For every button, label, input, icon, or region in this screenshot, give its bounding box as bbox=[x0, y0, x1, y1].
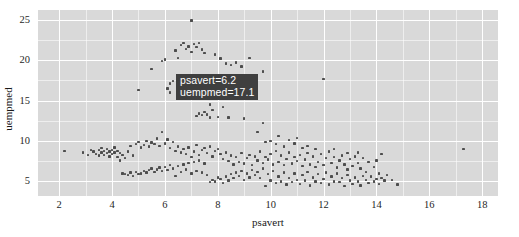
data-point[interactable] bbox=[269, 179, 271, 181]
data-point[interactable] bbox=[219, 153, 221, 155]
data-point[interactable] bbox=[299, 154, 301, 156]
data-point[interactable] bbox=[182, 148, 184, 150]
data-point[interactable] bbox=[193, 43, 195, 45]
data-point[interactable] bbox=[357, 162, 359, 164]
data-point[interactable] bbox=[222, 106, 224, 108]
data-point[interactable] bbox=[132, 154, 134, 156]
data-point[interactable] bbox=[63, 150, 65, 152]
data-point[interactable] bbox=[108, 155, 110, 157]
data-point[interactable] bbox=[357, 151, 359, 153]
data-point[interactable] bbox=[328, 150, 330, 152]
data-point[interactable] bbox=[333, 148, 335, 150]
data-point[interactable] bbox=[150, 167, 152, 169]
data-point[interactable] bbox=[341, 177, 343, 179]
data-point[interactable] bbox=[195, 144, 197, 146]
data-point[interactable] bbox=[185, 168, 187, 170]
data-point[interactable] bbox=[275, 150, 277, 152]
data-point[interactable] bbox=[264, 141, 266, 143]
data-point[interactable] bbox=[283, 164, 285, 166]
data-point[interactable] bbox=[206, 113, 208, 115]
data-point[interactable] bbox=[209, 181, 211, 183]
data-point[interactable] bbox=[346, 174, 348, 176]
data-point[interactable] bbox=[182, 163, 184, 165]
data-point[interactable] bbox=[262, 122, 264, 124]
data-point[interactable] bbox=[230, 154, 232, 156]
data-point[interactable] bbox=[217, 116, 219, 118]
data-point[interactable] bbox=[169, 147, 171, 149]
data-point[interactable] bbox=[145, 171, 147, 173]
data-point[interactable] bbox=[267, 173, 269, 175]
data-point[interactable] bbox=[150, 68, 152, 70]
data-point[interactable] bbox=[219, 57, 221, 59]
data-point[interactable] bbox=[219, 178, 221, 180]
data-point[interactable] bbox=[203, 52, 205, 54]
data-point[interactable] bbox=[338, 181, 340, 183]
data-point[interactable] bbox=[312, 176, 314, 178]
data-point[interactable] bbox=[137, 89, 139, 91]
data-point[interactable] bbox=[214, 180, 216, 182]
data-point[interactable] bbox=[87, 154, 89, 156]
data-point[interactable] bbox=[291, 162, 293, 164]
data-point[interactable] bbox=[95, 153, 97, 155]
data-point[interactable] bbox=[325, 171, 327, 173]
data-point[interactable] bbox=[462, 148, 464, 150]
data-point[interactable] bbox=[291, 181, 293, 183]
data-point[interactable] bbox=[227, 116, 229, 118]
data-point[interactable] bbox=[169, 82, 171, 84]
data-point[interactable] bbox=[365, 171, 367, 173]
data-point[interactable] bbox=[127, 174, 129, 176]
data-point[interactable] bbox=[232, 177, 234, 179]
data-point[interactable] bbox=[343, 163, 345, 165]
data-point[interactable] bbox=[98, 154, 100, 156]
data-point[interactable] bbox=[195, 115, 197, 117]
data-point[interactable] bbox=[209, 103, 211, 105]
data-point[interactable] bbox=[293, 142, 295, 144]
data-point[interactable] bbox=[341, 154, 343, 156]
data-point[interactable] bbox=[214, 150, 216, 152]
data-point[interactable] bbox=[169, 91, 171, 93]
data-point[interactable] bbox=[166, 138, 168, 140]
data-point[interactable] bbox=[256, 159, 258, 161]
data-point[interactable] bbox=[322, 78, 324, 80]
data-point[interactable] bbox=[230, 173, 232, 175]
data-point[interactable] bbox=[198, 42, 200, 44]
data-point[interactable] bbox=[127, 150, 129, 152]
data-point[interactable] bbox=[373, 166, 375, 168]
data-point[interactable] bbox=[214, 53, 216, 55]
data-point[interactable] bbox=[262, 70, 264, 72]
data-point[interactable] bbox=[288, 151, 290, 153]
data-point[interactable] bbox=[240, 65, 242, 67]
data-point[interactable] bbox=[174, 150, 176, 152]
data-point[interactable] bbox=[169, 164, 171, 166]
data-point[interactable] bbox=[285, 158, 287, 160]
data-point[interactable] bbox=[304, 179, 306, 181]
data-point[interactable] bbox=[121, 154, 123, 156]
data-point[interactable] bbox=[333, 180, 335, 182]
data-point[interactable] bbox=[373, 180, 375, 182]
data-point[interactable] bbox=[351, 183, 353, 185]
data-point[interactable] bbox=[259, 150, 261, 152]
data-point[interactable] bbox=[354, 155, 356, 157]
data-point[interactable] bbox=[203, 147, 205, 149]
data-point[interactable] bbox=[314, 166, 316, 168]
data-point[interactable] bbox=[301, 147, 303, 149]
data-point[interactable] bbox=[248, 57, 250, 59]
data-point[interactable] bbox=[246, 157, 248, 159]
data-point[interactable] bbox=[153, 143, 155, 145]
data-point[interactable] bbox=[277, 161, 279, 163]
data-point[interactable] bbox=[82, 151, 84, 153]
data-point[interactable] bbox=[185, 48, 187, 50]
data-point[interactable] bbox=[201, 114, 203, 116]
data-point[interactable] bbox=[325, 157, 327, 159]
plot-panel[interactable] bbox=[38, 10, 498, 196]
data-point[interactable] bbox=[195, 46, 197, 48]
data-point[interactable] bbox=[225, 175, 227, 177]
data-point[interactable] bbox=[177, 57, 179, 59]
data-point[interactable] bbox=[299, 183, 301, 185]
data-point[interactable] bbox=[185, 153, 187, 155]
data-point[interactable] bbox=[166, 87, 168, 89]
data-point[interactable] bbox=[232, 163, 234, 165]
data-point[interactable] bbox=[187, 146, 189, 148]
data-point[interactable] bbox=[177, 145, 179, 147]
data-point[interactable] bbox=[248, 176, 250, 178]
